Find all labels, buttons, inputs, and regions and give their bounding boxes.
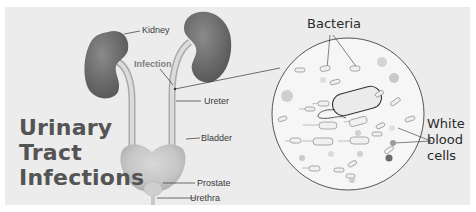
wbc-line-1: White — [427, 116, 465, 132]
label-urethra: Urethra — [190, 193, 220, 203]
title-line-3: Infections — [19, 165, 144, 190]
title-line-2: Tract — [19, 140, 144, 165]
microscope-view — [272, 35, 431, 190]
urethra — [151, 195, 155, 205]
kidney-right — [184, 12, 231, 83]
label-prostate: Prostate — [197, 178, 231, 188]
label-white-blood-cells: White blood cells — [427, 116, 465, 164]
label-kidney: Kidney — [142, 25, 170, 35]
prostate — [144, 182, 162, 196]
label-bacteria: Bacteria — [307, 16, 361, 32]
label-bladder: Bladder — [201, 133, 232, 143]
wbc-line-2: blood — [427, 132, 465, 148]
page-title: Urinary Tract Infections — [19, 115, 144, 190]
label-ureter: Ureter — [204, 96, 229, 106]
title-line-1: Urinary — [19, 115, 144, 140]
label-infection: Infection — [134, 59, 172, 69]
ureter-right — [172, 42, 190, 152]
wbc-line-3: cells — [427, 148, 465, 164]
